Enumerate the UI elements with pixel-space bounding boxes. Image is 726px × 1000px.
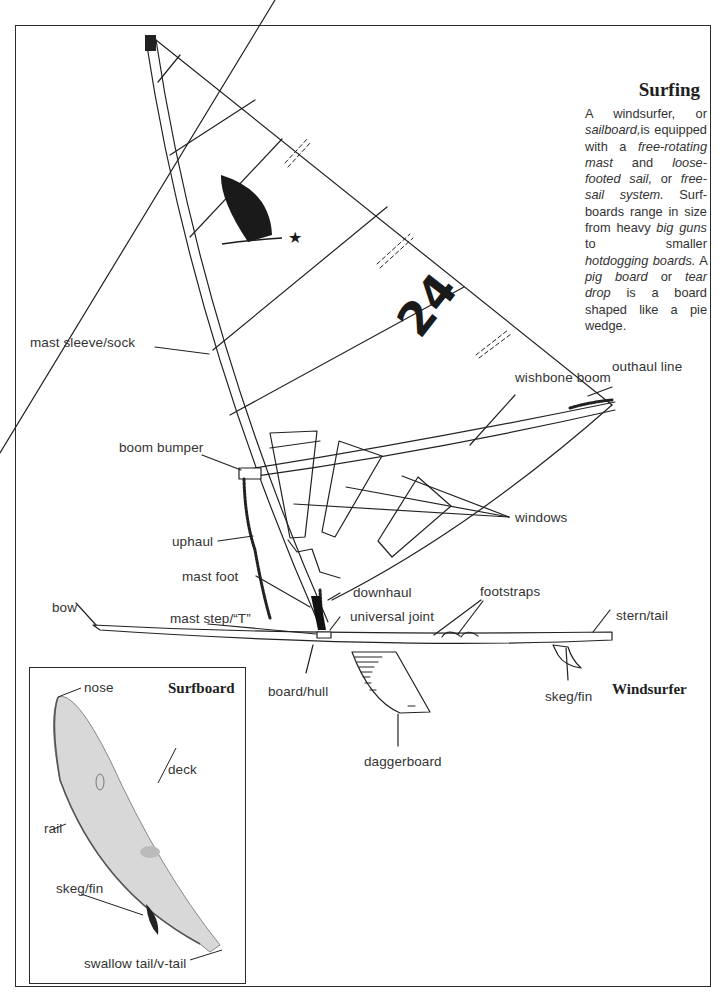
label-daggerboard: daggerboard (364, 754, 442, 769)
surfboard-heading: Surfboard (168, 680, 235, 697)
label-windows: windows (515, 510, 567, 525)
label-wishbone-boom: wishbone boom (515, 370, 611, 385)
intro-text: A windsurfer, or (585, 106, 707, 121)
label-mast-foot: mast foot (182, 569, 238, 584)
intro-term: big guns (656, 220, 707, 235)
label-boom-bumper: boom bumper (119, 440, 203, 455)
label-bow: bow (52, 600, 77, 615)
intro-term: hotdogging boards. (585, 253, 695, 268)
intro-term: sailboard, (585, 122, 641, 137)
label-board-hull: board/hull (268, 684, 328, 699)
label-swallow-tail: swallow tail/v-tail (84, 956, 186, 971)
sail-logo (221, 175, 272, 242)
intro-text: to smaller (585, 236, 707, 251)
label-skeg-fin-surfboard: skeg/fin (56, 881, 103, 896)
intro-term: pig board (585, 269, 648, 284)
page-title: Surfing (639, 79, 700, 101)
label-footstraps: footstraps (480, 584, 540, 599)
label-mast-step: mast step/“T” (170, 611, 251, 626)
windsurfer-heading: Windsurfer (612, 681, 687, 698)
label-stern-tail: stern/tail (616, 608, 668, 623)
label-skeg-fin: skeg/fin (545, 689, 592, 704)
sail-number: 24 (386, 263, 468, 347)
label-mast-sleeve: mast sleeve/sock (30, 335, 135, 350)
intro-paragraph: A windsurfer, or sailboard,is equipped w… (585, 106, 707, 334)
label-downhaul: downhaul (353, 585, 412, 600)
mast-tip (145, 35, 156, 51)
label-nose: nose (84, 680, 114, 695)
intro-text: or (648, 269, 685, 284)
label-uphaul: uphaul (172, 534, 213, 549)
label-outhaul-line: outhaul line (612, 359, 682, 374)
label-universal-joint: universal joint (350, 609, 434, 624)
intro-text: or (652, 171, 681, 186)
intro-text: A (695, 253, 707, 268)
label-deck: deck (168, 762, 197, 777)
intro-text: and (613, 155, 672, 170)
label-rail: rail (44, 821, 62, 836)
svg-text:★: ★ (288, 228, 302, 247)
